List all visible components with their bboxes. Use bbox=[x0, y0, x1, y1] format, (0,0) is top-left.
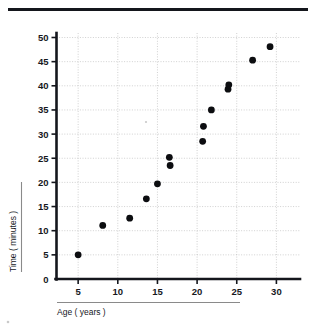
y-tick-label: 10 bbox=[38, 225, 49, 236]
y-tick-label: 45 bbox=[38, 56, 49, 67]
y-tick-label: 5 bbox=[43, 249, 49, 260]
data-point bbox=[208, 107, 215, 114]
y-tick-label: 40 bbox=[38, 80, 49, 91]
y-tick-label: 20 bbox=[38, 177, 49, 188]
y-tick-label: 0 bbox=[43, 274, 48, 285]
chart-ticks bbox=[52, 38, 277, 285]
x-tick-label: 25 bbox=[231, 286, 242, 297]
data-point bbox=[143, 195, 150, 202]
data-point bbox=[154, 180, 161, 187]
y-tick-label: 30 bbox=[38, 129, 49, 140]
y-tick-label: 25 bbox=[38, 153, 49, 164]
data-point bbox=[199, 138, 206, 145]
y-tick-label: 35 bbox=[38, 104, 49, 115]
x-axis-title: Age ( years ) bbox=[57, 307, 106, 317]
paper-speck bbox=[145, 121, 147, 123]
data-point bbox=[225, 81, 232, 88]
data-point bbox=[167, 162, 174, 169]
x-tick-label: 5 bbox=[76, 286, 82, 297]
data-point bbox=[166, 154, 173, 161]
data-point bbox=[249, 57, 256, 64]
chart-datapoints bbox=[75, 43, 274, 258]
paper-speck bbox=[7, 321, 10, 324]
x-tick-label: 15 bbox=[152, 286, 163, 297]
x-tick-label: 30 bbox=[271, 286, 282, 297]
data-point bbox=[126, 215, 133, 222]
chart-tick-labels: 5101520253005101520253035404550 bbox=[38, 32, 282, 297]
data-point bbox=[75, 251, 82, 258]
y-tick-label: 50 bbox=[38, 32, 49, 43]
chart-gridlines bbox=[57, 33, 301, 279]
x-tick-label: 20 bbox=[192, 286, 203, 297]
y-axis-title: Time ( minutes ) bbox=[8, 211, 18, 272]
x-tick-label: 10 bbox=[113, 286, 124, 297]
scatter-plot-figure: 5101520253005101520253035404550 Time ( m… bbox=[0, 0, 316, 327]
y-tick-label: 15 bbox=[38, 201, 49, 212]
data-point bbox=[99, 222, 106, 229]
data-point bbox=[267, 43, 274, 50]
data-point bbox=[200, 123, 207, 130]
